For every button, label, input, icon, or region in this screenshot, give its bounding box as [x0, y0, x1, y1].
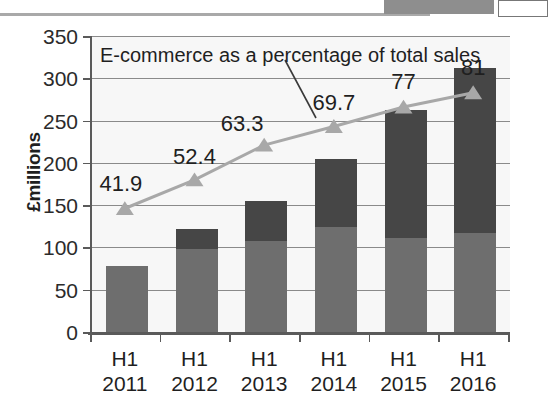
- gray-block: [384, 0, 494, 14]
- outlined-box: [498, 0, 548, 17]
- gridline: [92, 121, 510, 122]
- y-axis-tick: [83, 36, 92, 38]
- gridline: [92, 205, 510, 206]
- x-label-line1: H1: [320, 347, 347, 370]
- x-label-line1: H1: [181, 347, 208, 370]
- x-label-line2: 2016: [428, 371, 518, 396]
- bar-segment-in-store: [245, 241, 287, 332]
- gridline: [92, 78, 510, 79]
- y-axis-tick-label: 100: [43, 237, 78, 258]
- x-axis-tick: [160, 332, 162, 342]
- gridline: [92, 290, 510, 291]
- y-axis-tick-label: 50: [55, 279, 78, 300]
- horizontal-rule: [0, 13, 430, 16]
- x-axis-tick: [438, 332, 440, 342]
- bar-segment-online: [315, 159, 357, 227]
- bar-column: [315, 36, 357, 332]
- bar-segment-online: [454, 68, 496, 233]
- x-label-line1: H1: [390, 347, 417, 370]
- stacked-bar-chart: £millions 050100150200250300350 41.952.4…: [0, 22, 554, 407]
- cropped-top-artifact: [0, 0, 554, 22]
- x-axis-tick: [369, 332, 371, 342]
- y-axis-tick-label: 200: [43, 152, 78, 173]
- bar-segment-in-store: [385, 238, 427, 332]
- y-axis-tick-label: 300: [43, 68, 78, 89]
- bar-segment-in-store: [315, 227, 357, 332]
- y-axis-tick: [83, 205, 92, 207]
- x-axis-tick: [90, 332, 92, 342]
- x-axis-tick: [508, 332, 510, 342]
- y-axis-tick: [83, 121, 92, 123]
- y-axis-tick-label: 250: [43, 110, 78, 131]
- y-axis-tick: [83, 247, 92, 249]
- bar-column: [454, 36, 496, 332]
- x-label-line1: H1: [251, 347, 278, 370]
- bar-segment-in-store: [454, 233, 496, 332]
- bar-column: [385, 36, 427, 332]
- gridline: [92, 36, 510, 37]
- bar-segment-in-store: [176, 249, 218, 332]
- bar-segment-online: [385, 110, 427, 238]
- gridline: [92, 247, 510, 248]
- bar-column: [245, 36, 287, 332]
- plot-area: [90, 36, 510, 332]
- bar-column: [106, 36, 148, 332]
- bar-column: [176, 36, 218, 332]
- x-label-line1: H1: [460, 347, 487, 370]
- x-axis-category-label: H12016: [428, 346, 518, 396]
- x-axis-tick: [299, 332, 301, 342]
- y-axis-tick: [83, 78, 92, 80]
- y-axis-tick-label: 0: [66, 322, 78, 343]
- x-axis-tick: [229, 332, 231, 342]
- gridline: [92, 163, 510, 164]
- y-axis-tick: [83, 163, 92, 165]
- y-axis-tick-labels: 050100150200250300350: [0, 22, 88, 352]
- bar-segment-online: [176, 229, 218, 249]
- x-label-line1: H1: [111, 347, 138, 370]
- y-axis-tick: [83, 290, 92, 292]
- y-axis-tick-label: 350: [43, 26, 78, 47]
- bar-segment-online: [245, 201, 287, 241]
- annotation-label: E-commerce as a percentage of total sale…: [100, 44, 480, 66]
- bar-segment-in-store: [106, 266, 148, 332]
- y-axis-tick-label: 150: [43, 195, 78, 216]
